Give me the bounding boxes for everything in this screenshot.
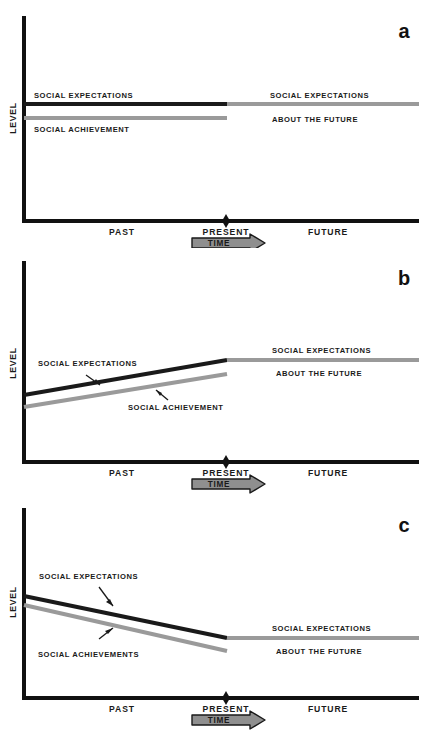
x-tick-future-b: FUTURE: [308, 468, 348, 478]
x-tick-present-a: PRESENT: [203, 227, 250, 237]
x-tick-past-b: PAST: [109, 468, 135, 478]
label-expectations-past-c: SOCIAL EXPECTATIONS: [39, 572, 138, 581]
x-tick-present-c: PRESENT: [203, 704, 250, 714]
time-arrow-label-b: TIME: [208, 480, 230, 489]
label-expectations-future-line2-c: ABOUT THE FUTURE: [276, 647, 362, 656]
axes-c: [24, 508, 419, 698]
y-axis-label-b: LEVEL: [8, 347, 18, 379]
label-expectations-past-a: SOCIAL EXPECTATIONS: [34, 91, 133, 100]
panel-letter-b: b: [398, 267, 410, 289]
y-axis-label-c: LEVEL: [8, 586, 18, 618]
panel-a: SOCIAL EXPECTATIONS SOCIAL ACHIEVEMENT S…: [0, 0, 427, 248]
label-expectations-future-line1-c: SOCIAL EXPECTATIONS: [272, 624, 371, 633]
time-arrow-label-a: TIME: [208, 239, 230, 248]
label-achievement-past-b: SOCIAL ACHIEVEMENT: [128, 403, 224, 412]
label-expectations-future-line1-a: SOCIAL EXPECTATIONS: [270, 91, 369, 100]
panel-b-chart: SOCIAL EXPECTATIONS SOCIAL ACHIEVEMENT S…: [0, 249, 427, 494]
label-expectations-future-line2-b: ABOUT THE FUTURE: [276, 369, 362, 378]
label-expectations-past-b: SOCIAL EXPECTATIONS: [38, 359, 137, 368]
x-tick-past-a: PAST: [109, 227, 135, 237]
panel-letter-a: a: [398, 20, 410, 42]
series-achievement-past-c: [24, 605, 227, 651]
y-axis-label-a: LEVEL: [8, 102, 18, 134]
label-expectations-future-line1-b: SOCIAL EXPECTATIONS: [272, 346, 371, 355]
leader-achievement-arrowhead-b: [156, 390, 162, 396]
label-achievement-past-c: SOCIAL ACHIEVEMENTS: [38, 650, 139, 659]
panel-b: SOCIAL EXPECTATIONS SOCIAL ACHIEVEMENT S…: [0, 249, 427, 494]
panel-a-chart: SOCIAL EXPECTATIONS SOCIAL ACHIEVEMENT S…: [0, 0, 427, 248]
panel-letter-c: c: [398, 514, 409, 536]
time-arrow-label-c: TIME: [208, 716, 230, 725]
panel-c-chart: SOCIAL EXPECTATIONS SOCIAL ACHIEVEMENTS …: [0, 494, 427, 737]
x-tick-future-c: FUTURE: [308, 704, 348, 714]
label-achievement-past-a: SOCIAL ACHIEVEMENT: [34, 125, 130, 134]
present-marker-c: [222, 691, 230, 705]
leader-expectations-arrowhead-c: [106, 599, 113, 606]
x-tick-present-b: PRESENT: [203, 468, 250, 478]
figure-root: SOCIAL EXPECTATIONS SOCIAL ACHIEVEMENT S…: [0, 0, 427, 737]
label-expectations-future-line2-a: ABOUT THE FUTURE: [272, 115, 358, 124]
present-marker-a: [222, 214, 230, 228]
present-marker-b: [222, 455, 230, 469]
x-tick-past-c: PAST: [109, 704, 135, 714]
series-expectations-past-c: [24, 596, 227, 638]
x-tick-future-a: FUTURE: [308, 227, 348, 237]
panel-c: SOCIAL EXPECTATIONS SOCIAL ACHIEVEMENTS …: [0, 494, 427, 737]
